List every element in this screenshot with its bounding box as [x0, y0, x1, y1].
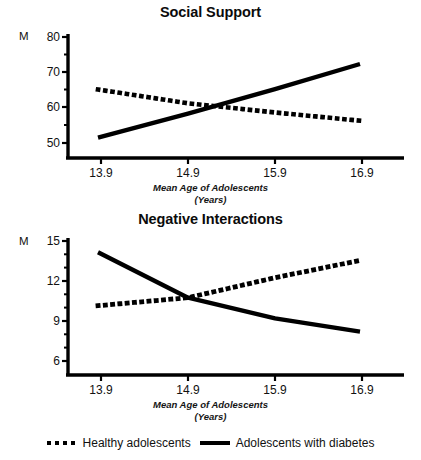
x-tick-label-14-9: 14.9 — [165, 384, 211, 396]
x-tick-label-13-9: 13.9 — [78, 167, 124, 179]
figure-container: Social Support M 80 70 60 50 — [0, 0, 421, 460]
chart-panel-social-support: Social Support M 80 70 60 50 — [0, 0, 421, 208]
x-tick-label-16-9: 16.9 — [339, 384, 385, 396]
solid-line-swatch-icon — [200, 441, 230, 445]
legend-label-adolescents-with-diabetes: Adolescents with diabetes — [236, 436, 375, 450]
series-line-adolescents-with-diabetes — [98, 252, 360, 331]
x-axis-title-social-support: Mean Age of Adolescents — [0, 182, 421, 193]
x-tick-label-14-9: 14.9 — [165, 167, 211, 179]
legend-item-adolescents-with-diabetes: Adolescents with diabetes — [200, 436, 375, 450]
chart-legend: Healthy adolescents Adolescents with dia… — [0, 432, 421, 454]
x-tick-label-13-9: 13.9 — [78, 384, 124, 396]
chart-panel-negative-interactions: Negative Interactions M 15 12 9 6 — [0, 208, 421, 423]
x-axis-title-units-social-support: (Years) — [0, 194, 421, 205]
dotted-line-swatch-icon — [47, 441, 77, 445]
x-tick-label-15-9: 15.9 — [252, 167, 298, 179]
series-line-adolescents-with-diabetes — [98, 64, 360, 138]
legend-label-healthy-adolescents: Healthy adolescents — [83, 436, 191, 450]
x-axis-title-units-negative-interactions: (Years) — [0, 411, 421, 422]
series-line-healthy-adolescents — [98, 90, 360, 121]
legend-item-healthy-adolescents: Healthy adolescents — [47, 436, 191, 450]
x-tick-label-16-9: 16.9 — [339, 167, 385, 179]
x-tick-label-15-9: 15.9 — [252, 384, 298, 396]
series-line-healthy-adolescents — [98, 260, 360, 305]
x-axis-title-negative-interactions: Mean Age of Adolescents — [0, 399, 421, 410]
